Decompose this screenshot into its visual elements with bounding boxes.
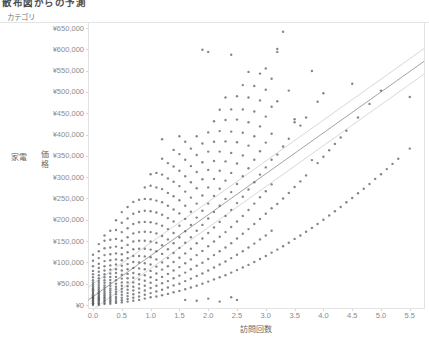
data-point[interactable]	[138, 255, 140, 257]
data-point[interactable]	[121, 301, 123, 303]
data-point[interactable]	[155, 250, 157, 252]
data-point[interactable]	[92, 276, 94, 278]
data-point[interactable]	[115, 296, 117, 298]
data-point[interactable]	[213, 266, 215, 268]
data-point[interactable]	[109, 296, 111, 298]
data-point[interactable]	[196, 242, 198, 244]
data-point[interactable]	[178, 185, 180, 187]
data-point[interactable]	[224, 274, 226, 276]
data-point[interactable]	[172, 277, 174, 279]
data-point[interactable]	[161, 201, 163, 203]
data-point[interactable]	[282, 31, 284, 33]
data-point[interactable]	[98, 280, 100, 282]
data-point[interactable]	[126, 263, 128, 265]
data-point[interactable]	[334, 210, 336, 212]
data-point[interactable]	[103, 240, 105, 242]
data-point[interactable]	[132, 248, 134, 250]
data-point[interactable]	[109, 282, 111, 284]
data-point[interactable]	[98, 286, 100, 288]
data-point[interactable]	[121, 211, 123, 213]
data-point[interactable]	[149, 210, 151, 212]
data-point[interactable]	[196, 216, 198, 218]
data-point[interactable]	[247, 246, 249, 248]
data-point[interactable]	[207, 202, 209, 204]
data-point[interactable]	[230, 130, 232, 132]
data-point[interactable]	[172, 291, 174, 293]
data-point[interactable]	[115, 268, 117, 270]
data-point[interactable]	[316, 162, 318, 164]
data-point[interactable]	[109, 264, 111, 266]
data-point[interactable]	[121, 259, 123, 261]
data-point[interactable]	[109, 230, 111, 232]
data-point[interactable]	[121, 231, 123, 233]
data-point[interactable]	[357, 192, 359, 194]
data-point[interactable]	[282, 245, 284, 247]
data-point[interactable]	[230, 172, 232, 174]
data-point[interactable]	[363, 188, 365, 190]
data-point[interactable]	[219, 170, 221, 172]
data-point[interactable]	[121, 294, 123, 296]
data-point[interactable]	[144, 255, 146, 257]
data-point[interactable]	[109, 268, 111, 270]
data-point[interactable]	[138, 283, 140, 285]
data-point[interactable]	[397, 158, 399, 160]
data-point[interactable]	[155, 258, 157, 260]
data-point[interactable]	[288, 192, 290, 194]
data-point[interactable]	[178, 135, 180, 137]
data-point[interactable]	[259, 258, 261, 260]
data-point[interactable]	[115, 291, 117, 293]
data-point[interactable]	[92, 283, 94, 285]
data-point[interactable]	[242, 215, 244, 217]
data-point[interactable]	[109, 253, 111, 255]
data-point[interactable]	[103, 269, 105, 271]
data-point[interactable]	[103, 276, 105, 278]
data-point[interactable]	[311, 70, 313, 72]
data-point[interactable]	[115, 229, 117, 231]
data-point[interactable]	[253, 135, 255, 137]
data-point[interactable]	[167, 280, 169, 282]
data-point[interactable]	[259, 125, 261, 127]
data-point[interactable]	[121, 297, 123, 299]
data-point[interactable]	[242, 84, 244, 86]
data-point[interactable]	[328, 214, 330, 216]
data-point[interactable]	[149, 240, 151, 242]
data-point[interactable]	[138, 278, 140, 280]
data-point[interactable]	[144, 280, 146, 282]
data-point[interactable]	[265, 67, 267, 69]
data-point[interactable]	[201, 210, 203, 212]
data-point[interactable]	[293, 186, 295, 188]
data-point[interactable]	[247, 209, 249, 211]
data-point[interactable]	[126, 298, 128, 300]
data-point[interactable]	[109, 285, 111, 287]
data-point[interactable]	[149, 263, 151, 265]
data-point[interactable]	[178, 274, 180, 276]
data-point[interactable]	[219, 130, 221, 132]
data-point[interactable]	[276, 51, 278, 53]
data-point[interactable]	[126, 236, 128, 238]
data-point[interactable]	[196, 187, 198, 189]
data-point[interactable]	[149, 282, 151, 284]
data-point[interactable]	[115, 279, 117, 281]
data-point[interactable]	[132, 272, 134, 274]
data-point[interactable]	[138, 211, 140, 213]
data-point[interactable]	[167, 238, 169, 240]
data-point[interactable]	[242, 266, 244, 268]
data-point[interactable]	[132, 213, 134, 215]
data-point[interactable]	[126, 227, 128, 229]
data-point[interactable]	[172, 165, 174, 167]
data-point[interactable]	[109, 276, 111, 278]
data-point[interactable]	[207, 245, 209, 247]
data-point[interactable]	[178, 170, 180, 172]
data-point[interactable]	[224, 231, 226, 233]
data-point[interactable]	[270, 251, 272, 253]
data-point[interactable]	[293, 118, 295, 120]
data-point[interactable]	[184, 190, 186, 192]
data-point[interactable]	[213, 254, 215, 256]
data-point[interactable]	[253, 223, 255, 225]
data-point[interactable]	[115, 293, 117, 295]
data-point[interactable]	[161, 289, 163, 291]
data-point[interactable]	[138, 295, 140, 297]
data-point[interactable]	[265, 166, 267, 168]
data-point[interactable]	[172, 149, 174, 151]
data-point[interactable]	[126, 285, 128, 287]
